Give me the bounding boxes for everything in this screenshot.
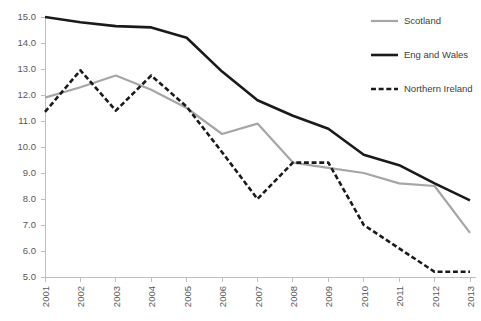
x-tick-label: 2001 (40, 286, 51, 307)
chart-canvas: 15.014.013.012.011.010.09.08.07.06.05.0 … (0, 0, 481, 321)
y-tick-label: 12.0 (18, 89, 37, 100)
y-tick-label: 15.0 (18, 11, 37, 22)
x-tick-label: 2002 (75, 286, 86, 307)
legend-label-eng-and-wales: Eng and Wales (404, 49, 468, 60)
x-tick-label: 2005 (182, 286, 193, 307)
legend-label-northern-ireland: Northern Ireland (404, 83, 473, 94)
line-chart: 15.014.013.012.011.010.09.08.07.06.05.0 … (0, 0, 481, 321)
x-tick-label: 2009 (323, 286, 334, 307)
y-axis-tick-labels: 15.014.013.012.011.010.09.08.07.06.05.0 (18, 11, 37, 282)
x-tick-label: 2012 (430, 286, 441, 307)
x-axis-ticks (45, 277, 470, 282)
y-tick-label: 10.0 (18, 141, 37, 152)
y-tick-label: 14.0 (18, 37, 37, 48)
y-tick-label: 5.0 (23, 271, 36, 282)
y-tick-label: 13.0 (18, 63, 37, 74)
legend-label-scotland: Scotland (404, 15, 441, 26)
x-tick-label: 2006 (217, 286, 228, 307)
y-tick-label: 11.0 (18, 115, 36, 126)
x-tick-label: 2011 (394, 286, 405, 306)
x-axis-tick-labels: 2001200220032004200520062007200820092010… (40, 286, 476, 307)
series-line-eng-and-wales (45, 17, 470, 200)
x-tick-label: 2004 (146, 286, 157, 307)
y-tick-label: 6.0 (23, 245, 36, 256)
x-tick-label: 2007 (253, 286, 264, 307)
y-tick-label: 9.0 (23, 167, 36, 178)
y-tick-label: 7.0 (23, 219, 36, 230)
y-tick-label: 8.0 (23, 193, 36, 204)
x-tick-label: 2008 (288, 286, 299, 307)
x-tick-label: 2003 (111, 286, 122, 307)
x-tick-label: 2010 (359, 286, 370, 307)
y-axis-ticks (41, 17, 45, 277)
chart-legend: ScotlandEng and WalesNorthern Ireland (371, 15, 473, 94)
x-tick-label: 2013 (465, 286, 476, 307)
